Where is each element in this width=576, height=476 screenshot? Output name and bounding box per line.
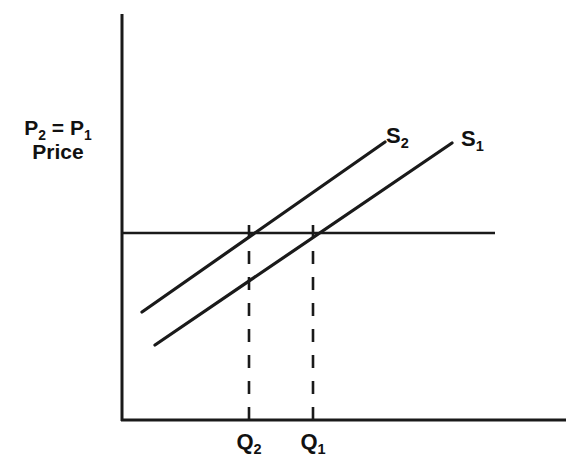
- y-axis-p2-prefix: P: [24, 116, 38, 139]
- q2-subscript: 2: [254, 441, 262, 457]
- y-axis-label: P2 = P1 Price: [12, 116, 104, 163]
- quantity-q1-label: Q1: [293, 429, 333, 455]
- q1-subscript: 1: [318, 441, 326, 457]
- supply-shift-chart: P2 = P1 Price S2 S1 Q2 Q1: [0, 0, 576, 476]
- s2-subscript: 2: [401, 135, 409, 151]
- chart-background: [0, 0, 576, 476]
- quantity-q2-label: Q2: [229, 429, 269, 455]
- s1-letter: S: [461, 126, 476, 151]
- s1-subscript: 1: [476, 138, 484, 154]
- q2-letter: Q: [236, 429, 253, 454]
- supply-curve-s2-label: S2: [386, 123, 409, 149]
- chart-canvas: [0, 0, 576, 476]
- s2-letter: S: [386, 123, 401, 148]
- y-axis-equals: = P: [46, 116, 84, 139]
- y-axis-p1-subscript: 1: [84, 127, 92, 143]
- q1-letter: Q: [300, 429, 317, 454]
- supply-curve-s1-label: S1: [461, 126, 484, 152]
- y-axis-label-line1: P2 = P1: [24, 116, 91, 139]
